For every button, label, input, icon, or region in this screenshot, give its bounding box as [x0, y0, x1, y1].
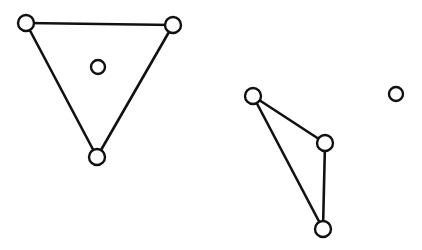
- edge-e-g: [253, 96, 323, 229]
- node-b: [165, 17, 181, 33]
- node-h: [389, 87, 403, 101]
- edge-e-f: [253, 96, 325, 143]
- node-f: [317, 135, 333, 151]
- node-c: [89, 149, 105, 165]
- node-g: [315, 221, 331, 237]
- edge-a-c: [26, 23, 97, 157]
- node-a: [18, 15, 34, 31]
- node-d: [91, 60, 105, 74]
- nodes-layer: [18, 15, 403, 237]
- edge-a-b: [26, 23, 173, 25]
- node-e: [245, 88, 261, 104]
- graph-diagram: [0, 0, 422, 250]
- edges-layer: [26, 23, 325, 229]
- edge-f-g: [323, 143, 325, 229]
- edge-b-c: [97, 25, 173, 157]
